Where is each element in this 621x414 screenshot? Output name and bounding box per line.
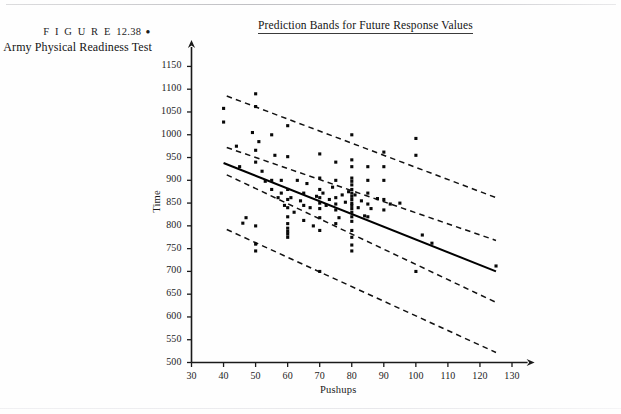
lower-outer-prediction-band [227,229,496,352]
data-point [350,158,353,161]
data-point [286,236,289,239]
data-point [280,179,283,182]
y-axis-tick-label: 950 [148,151,182,162]
data-point [270,179,273,182]
data-point [238,165,241,168]
data-point [318,229,321,232]
y-axis-tick-label: 650 [148,287,182,298]
data-point [414,270,417,273]
data-point [254,92,257,95]
data-point [366,192,369,195]
data-point [286,233,289,236]
y-axis-tick-label: 850 [148,196,182,207]
data-point [350,133,353,136]
data-point [302,219,305,222]
data-point [369,207,372,210]
data-point [254,224,257,227]
data-point [350,180,353,183]
data-point [254,249,257,252]
data-point [235,145,238,148]
data-point [286,206,289,209]
lower-inner-confidence-band [227,175,496,303]
data-point [360,199,363,202]
data-point [350,243,353,246]
data-point [414,154,417,157]
data-point [350,207,353,210]
data-point [382,208,385,211]
data-point [366,179,369,182]
y-axis-tick-label: 550 [148,333,182,344]
data-point [305,182,308,185]
data-point [318,177,321,180]
data-point [318,216,321,219]
x-axis-tick-label: 70 [305,370,335,381]
upper-outer-prediction-band [227,96,496,198]
data-point [270,188,273,191]
y-axis-tick-label: 700 [148,264,182,275]
data-point [350,220,353,223]
x-axis-tick-label: 100 [401,370,431,381]
data-point [366,202,369,205]
data-point [277,196,280,199]
data-point [318,188,321,191]
data-point [244,216,247,219]
x-axis-tick-label: 110 [433,370,463,381]
data-point [261,170,264,173]
data-point [286,155,289,158]
y-axis-tick-label: 600 [148,310,182,321]
data-point [254,243,257,246]
data-point [398,202,401,205]
data-point [257,140,260,143]
regression-line-layer [224,163,496,271]
data-point [283,204,286,207]
figure-page: F I G U R E 12.38 ● Army Physical Readin… [0,0,621,414]
data-point [293,211,296,214]
data-point [366,215,369,218]
data-point [357,206,360,209]
data-point [254,105,257,108]
x-axis-tick-label: 80 [337,370,367,381]
data-point [302,192,305,195]
data-point [382,179,385,182]
data-point [318,207,321,210]
data-point [421,233,424,236]
data-point [318,152,321,155]
prediction-bands-layer [227,96,496,352]
data-point [286,227,289,230]
data-point [241,222,244,225]
data-point [382,151,385,154]
data-point [270,133,273,136]
data-point [334,196,337,199]
data-point [222,120,225,123]
data-point [350,188,353,191]
data-point [334,161,337,164]
data-point [318,202,321,205]
data-point [254,149,257,152]
axes-layer [187,40,535,367]
data-point [353,193,356,196]
data-point [350,236,353,239]
data-point [350,229,353,232]
scatter-plot [0,0,621,414]
data-point [430,242,433,245]
data-point [222,107,225,110]
data-point [299,199,302,202]
x-axis-tick-label: 50 [241,370,271,381]
data-point [350,183,353,186]
data-point [337,216,340,219]
data-point [286,215,289,218]
data-point [382,165,385,168]
y-axis-tick-label: 1050 [148,105,182,116]
y-axis-tick-label: 1100 [148,82,182,93]
y-axis-tick-label: 500 [148,356,182,367]
data-point [289,196,292,199]
y-axis-arrow-icon [188,40,195,48]
y-axis-tick-label: 1000 [148,128,182,139]
data-point [347,190,350,193]
data-point [350,198,353,201]
data-point [321,192,324,195]
data-point [334,208,337,211]
data-point [264,180,267,183]
upper-inner-confidence-band [227,148,496,241]
y-axis-tick-label: 750 [148,242,182,253]
